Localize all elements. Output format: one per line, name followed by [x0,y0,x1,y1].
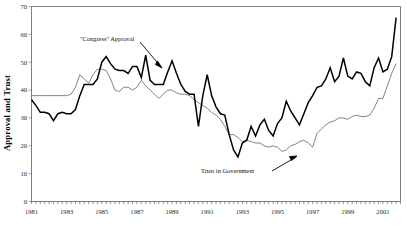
annotation-congress-approval-label: "Congress" Approval [80,35,135,42]
y-axis-ticks: 010203040506070 [20,3,31,205]
x-tick-label: 1997 [306,208,320,215]
x-tick-label: 1989 [165,208,179,215]
annotation-trust-in-government: Trust in Government [201,156,297,174]
y-axis-title-text: Approval and Trust [2,75,12,151]
x-tick-label: 1991 [201,208,214,215]
x-tick-label: 1993 [236,208,250,215]
approval-and-trust-line-chart: 010203040506070 198119831985198719891991… [0,0,407,227]
x-tick-label: 1987 [130,208,144,215]
x-tick-label: 1981 [25,208,38,215]
chart-figure: 010203040506070 198119831985198719891991… [0,0,407,227]
y-tick-label: 50 [20,59,27,66]
y-axis-title: Approval and Trust [2,75,12,151]
x-tick-label: 2001 [376,208,389,215]
y-tick-label: 10 [20,170,27,177]
annotation-congress-approval-arrowhead [156,61,163,68]
y-tick-label: 70 [20,3,27,10]
series-line-trust-in-government [32,64,397,152]
y-tick-label: 40 [20,86,27,93]
x-tick-label: 1983 [60,208,74,215]
y-tick-label: 60 [20,31,27,38]
x-tick-label: 1985 [95,208,109,215]
annotation-trust-in-government-label: Trust in Government [201,167,255,174]
y-tick-label: 30 [20,114,27,121]
y-tick-label: 0 [24,198,28,205]
y-tick-label: 20 [20,142,27,149]
annotation-congress-approval: "Congress" Approval [80,35,162,68]
x-axis-tick-labels: 1981198319851987198919911993199519971999… [25,208,390,215]
x-tick-label: 1999 [341,208,355,215]
x-tick-label: 1995 [271,208,285,215]
